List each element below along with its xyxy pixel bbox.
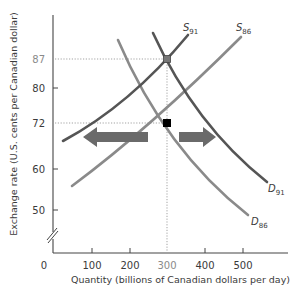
x-tick-300: 300 xyxy=(157,260,176,271)
x-tick-100: 100 xyxy=(82,260,101,271)
label-d91: D91 xyxy=(268,183,285,197)
y-tick-50: 50 xyxy=(32,205,45,216)
label-s86: S86 xyxy=(236,22,252,36)
x-axis-title: Quantity (billions of Canadian dollars p… xyxy=(71,274,290,285)
y-axis-title: Exchange rate (U.S. cents per Canadian d… xyxy=(8,12,19,235)
equilibrium-point-1991 xyxy=(164,56,171,63)
y-tick-60: 60 xyxy=(32,164,45,175)
y-tick-72: 72 xyxy=(32,118,45,129)
demand-curve-d86 xyxy=(118,40,248,215)
x-tick-500: 500 xyxy=(233,260,252,271)
label-d86: D86 xyxy=(251,216,268,230)
y-ticks xyxy=(53,88,58,210)
y-tick-87: 87 xyxy=(32,54,45,65)
exchange-rate-chart: 87 80 72 60 50 0 100 200 300 400 500 Qua… xyxy=(0,0,302,288)
x-tick-400: 400 xyxy=(195,260,214,271)
x-tick-0: 0 xyxy=(41,260,47,271)
arrow-left-icon xyxy=(83,127,148,147)
x-tick-200: 200 xyxy=(120,260,139,271)
equilibrium-point-1986 xyxy=(163,119,171,127)
y-tick-80: 80 xyxy=(32,83,45,94)
arrow-right-icon xyxy=(179,127,216,147)
label-s91: S91 xyxy=(183,22,198,36)
x-ticks xyxy=(92,248,243,253)
axis-break-icon xyxy=(46,228,58,243)
